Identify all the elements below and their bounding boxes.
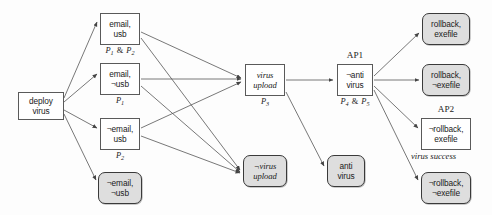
node-anti_virus[interactable]: antivirus [327, 155, 365, 187]
node-label-line1: ¬email, [107, 178, 133, 189]
edge-deploy-to-nemail_nusb [64, 114, 96, 180]
edge-nemail_usb-to-nvirus_upload [141, 136, 240, 173]
node-label-line2: usb [113, 134, 126, 145]
proposition-label-p4_and_p5: P4 & P5 [327, 97, 383, 106]
node-rb_nexe[interactable]: rollback,¬exefile [422, 64, 470, 96]
node-label-line2: usb [113, 29, 126, 40]
node-label-line2: exefile [434, 134, 457, 145]
edge-deploy-to-nemail_usb [64, 110, 97, 128]
edge-nemail_usb-to-virus_upload [141, 82, 241, 128]
node-label-line1: rollback, [431, 70, 461, 81]
edge-nanti_virus-to-rb_exe [374, 33, 419, 76]
node-label-line1: deploy [29, 96, 53, 107]
node-label-line1: virus [257, 70, 274, 81]
node-label-line1: email, [109, 19, 131, 30]
node-virus_upload[interactable]: virusupload [245, 64, 285, 96]
edge-email_usb-to-virus_upload [141, 32, 241, 78]
node-label-line1: ¬email, [107, 124, 133, 135]
node-email_usb[interactable]: email,usb [100, 13, 140, 45]
node-label-line1: email, [109, 69, 131, 80]
node-label-line1: ¬rollback, [429, 124, 464, 135]
proposition-label-p2: P2 [100, 151, 140, 160]
node-label-line1: rollback, [431, 19, 461, 30]
node-label-line2: upload [253, 171, 276, 182]
node-label-line2: virus [337, 171, 354, 182]
node-deploy[interactable]: deployvirus [18, 92, 64, 120]
node-nvirus_upload[interactable]: ¬virusupload [243, 155, 287, 187]
node-label-line2: ¬exefile [432, 188, 460, 199]
node-label-line2: virus [346, 80, 363, 91]
node-label-line1: anti [340, 161, 353, 172]
node-label-line2: ¬usb [111, 79, 129, 90]
edge-email_usb-to-nvirus_upload [141, 38, 240, 170]
edge-deploy-to-email_usb [64, 22, 97, 98]
node-nrb_exe[interactable]: ¬rollback,exefile [421, 118, 471, 150]
node-nemail_nusb[interactable]: ¬email,¬usb [98, 172, 142, 204]
node-label-line2: ¬usb [111, 188, 129, 199]
node-label-line2: ¬exefile [432, 80, 460, 91]
proposition-label-p1_and_p2: P1 & P2 [100, 46, 140, 55]
edge-virus_upload-to-anti_virus [286, 92, 324, 166]
node-label-line1: ¬rollback, [429, 178, 464, 189]
node-label-line2: exefile [434, 29, 457, 40]
ap-label-ap2: AP2 [421, 104, 471, 114]
node-nrb_nexe[interactable]: ¬rollback,¬exefile [421, 172, 471, 204]
diagram-canvas: deployvirusemail,usbemail,¬usb¬email,usb… [0, 0, 492, 215]
node-label-line1: ¬virus [254, 161, 276, 172]
node-rb_exe[interactable]: rollback,exefile [422, 13, 470, 45]
node-label-line2: upload [253, 80, 276, 91]
edge-nanti_virus-to-nrb_exe [374, 86, 418, 128]
node-label-line2: virus [32, 106, 49, 117]
node-email_nusb[interactable]: email,¬usb [100, 63, 140, 95]
edge-email_nusb-to-nvirus_upload [141, 86, 240, 172]
caption-virus_success: virus success [411, 151, 456, 161]
node-label-line1: ¬anti [346, 70, 364, 81]
node-nanti_virus[interactable]: ¬antivirus [337, 64, 373, 96]
edge-deploy-to-email_nusb [64, 74, 97, 102]
ap-label-ap1: AP1 [337, 50, 373, 60]
node-nemail_usb[interactable]: ¬email,usb [100, 118, 140, 150]
proposition-label-p1: P1 [100, 96, 140, 105]
proposition-label-p3: P3 [245, 97, 285, 106]
